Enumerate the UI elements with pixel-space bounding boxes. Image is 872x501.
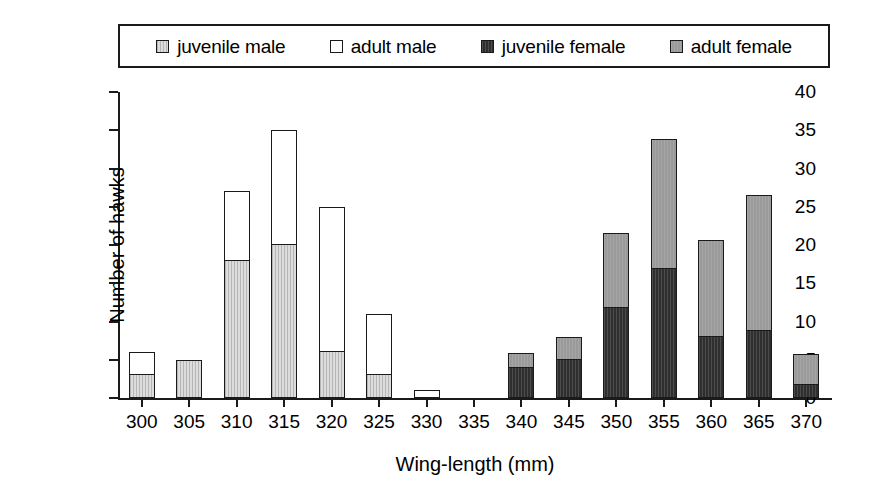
- bar-segment: [652, 140, 676, 269]
- bar-370[interactable]: [793, 354, 819, 398]
- bar-350[interactable]: [603, 233, 629, 398]
- bar-segment: [699, 241, 723, 337]
- y-axis-tick-label: 30: [795, 159, 816, 178]
- x-axis-tick: [520, 398, 522, 407]
- x-axis-tick: [426, 398, 428, 407]
- bar-segment: [652, 269, 676, 397]
- y-axis-tick-label: 35: [795, 120, 816, 139]
- legend-item-label: juvenile male: [177, 37, 285, 56]
- bar-segment: [225, 261, 249, 397]
- bar-305[interactable]: [176, 360, 202, 398]
- y-axis-tick: [109, 359, 118, 361]
- bar-segment: [272, 245, 296, 397]
- y-axis-tick: [109, 206, 118, 208]
- chart-figure: juvenile maleadult malejuvenile femalead…: [0, 0, 872, 501]
- bar-segment: [794, 385, 818, 397]
- legend-item-label: adult male: [351, 37, 437, 56]
- bar-segment: [415, 391, 439, 397]
- legend-swatch-icon: [156, 40, 169, 53]
- x-axis-line: [118, 398, 832, 400]
- bar-315[interactable]: [271, 130, 297, 398]
- y-axis-tick: [109, 91, 118, 93]
- x-axis-tick: [663, 398, 665, 407]
- bar-segment: [604, 308, 628, 397]
- bar-355[interactable]: [651, 139, 677, 398]
- x-axis-tick: [710, 398, 712, 407]
- legend-item[interactable]: juvenile female: [481, 37, 626, 56]
- x-axis-tick: [188, 398, 190, 407]
- bar-segment: [699, 337, 723, 397]
- bar-segment: [320, 352, 344, 397]
- bar-310[interactable]: [224, 191, 250, 398]
- y-axis-tick-label: 25: [795, 197, 816, 216]
- y-axis-tick: [109, 397, 118, 399]
- bar-segment: [747, 331, 771, 397]
- bar-325[interactable]: [366, 314, 392, 398]
- x-axis-tick: [473, 398, 475, 407]
- y-axis-tick-label: 40: [795, 82, 816, 101]
- legend-item[interactable]: adult female: [670, 37, 792, 56]
- legend-item-label: juvenile female: [502, 37, 626, 56]
- legend-item[interactable]: adult male: [330, 37, 437, 56]
- y-axis-tick-label: 15: [795, 273, 816, 292]
- legend-item[interactable]: juvenile male: [156, 37, 285, 56]
- bar-segment: [557, 360, 581, 397]
- bar-segment: [509, 368, 533, 397]
- y-axis-tick: [109, 282, 118, 284]
- bar-segment: [794, 355, 818, 384]
- bar-segment: [320, 208, 344, 352]
- y-axis-tick-label: 20: [795, 235, 816, 254]
- bar-340[interactable]: [508, 353, 534, 398]
- bar-segment: [604, 234, 628, 308]
- x-axis-tick: [568, 398, 570, 407]
- x-axis-tick: [236, 398, 238, 407]
- y-axis-tick-label: 10: [795, 312, 816, 331]
- bar-360[interactable]: [698, 240, 724, 398]
- bar-segment: [367, 315, 391, 375]
- legend-item-label: adult female: [691, 37, 792, 56]
- y-axis-tick: [109, 321, 118, 323]
- x-axis-tick-label: 370: [776, 412, 836, 431]
- x-axis-tick: [758, 398, 760, 407]
- bar-segment: [747, 196, 771, 331]
- y-axis-tick: [109, 168, 118, 170]
- bar-300[interactable]: [129, 352, 155, 398]
- bar-segment: [557, 338, 581, 360]
- bar-segment: [367, 375, 391, 397]
- x-axis-tick: [141, 398, 143, 407]
- bar-segment: [509, 354, 533, 368]
- x-axis-tick: [331, 398, 333, 407]
- bar-segment: [225, 192, 249, 260]
- legend-swatch-icon: [481, 40, 494, 53]
- x-axis-tick: [378, 398, 380, 407]
- y-axis-tick: [109, 244, 118, 246]
- x-axis-title: Wing-length (mm): [118, 452, 832, 476]
- bar-segment: [177, 361, 201, 397]
- x-axis-tick: [283, 398, 285, 407]
- chart-legend: juvenile maleadult malejuvenile femalead…: [118, 24, 830, 68]
- bar-segment: [130, 353, 154, 375]
- bar-segment: [272, 131, 296, 245]
- legend-swatch-icon: [670, 40, 683, 53]
- bar-365[interactable]: [746, 195, 772, 398]
- plot-area: Number of hawks 051015202530354030030531…: [118, 92, 830, 398]
- bar-330[interactable]: [414, 390, 440, 398]
- x-axis-tick: [805, 398, 807, 407]
- bar-320[interactable]: [319, 207, 345, 398]
- x-axis-tick: [615, 398, 617, 407]
- bar-345[interactable]: [556, 337, 582, 398]
- bar-segment: [130, 375, 154, 397]
- y-axis-tick: [109, 129, 118, 131]
- legend-swatch-icon: [330, 40, 343, 53]
